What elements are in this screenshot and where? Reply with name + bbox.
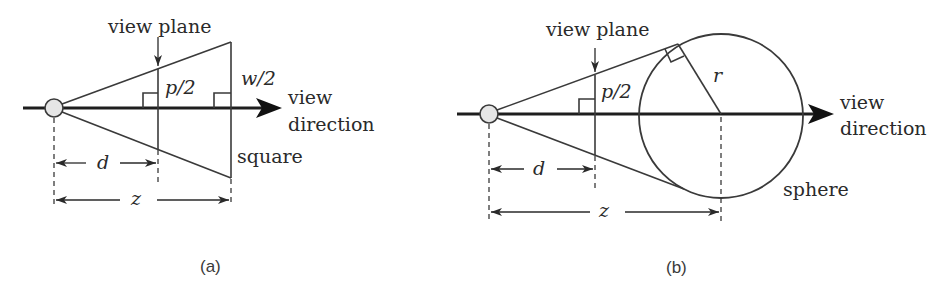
right-angle-icon — [579, 99, 595, 114]
caption-b: (b) — [666, 258, 687, 277]
view-direction-label-line1: view — [287, 86, 333, 108]
right-angle-icon — [143, 93, 158, 108]
view-direction-label-line2: direction — [840, 117, 927, 139]
z-label: z — [130, 187, 142, 209]
frustum-bottom-edge — [62, 112, 231, 178]
view-plane-label: view plane — [545, 18, 649, 40]
view-direction-label-line1: view — [839, 91, 885, 113]
view-plane-label: view plane — [107, 15, 211, 37]
object-label-square: square — [237, 145, 303, 167]
object-label-sphere: sphere — [783, 178, 849, 200]
frustum-bottom-edge — [497, 118, 684, 189]
view-direction-label-line2: direction — [288, 113, 375, 135]
eye-point-icon — [45, 99, 63, 117]
d-label: d — [97, 151, 109, 173]
p-half-label: p/2 — [601, 80, 632, 102]
frustum-top-edge — [62, 42, 231, 104]
radius-label: r — [713, 64, 724, 86]
w-half-label: w/2 — [241, 67, 276, 89]
right-angle-icon — [665, 49, 684, 62]
panel-b: view plane p/2 r view direction sphere d… — [457, 18, 927, 277]
d-label: d — [533, 157, 545, 179]
frustum-top-edge — [497, 44, 678, 110]
p-half-label: p/2 — [165, 76, 196, 98]
figure-canvas: view plane p/2 w/2 view direction square… — [0, 0, 945, 298]
caption-a: (a) — [200, 257, 221, 276]
eye-point-icon — [480, 105, 498, 123]
panel-a: view plane p/2 w/2 view direction square… — [23, 15, 375, 276]
right-angle-icon — [214, 93, 231, 108]
z-label: z — [598, 199, 610, 221]
